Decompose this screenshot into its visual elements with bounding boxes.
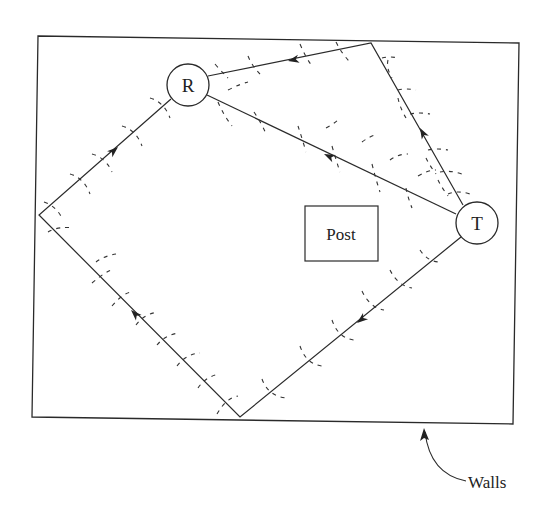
arrow-icon — [107, 144, 121, 157]
transmitter-node: T — [456, 202, 498, 244]
walls-label: Walls — [468, 473, 506, 492]
path-arrows — [107, 55, 429, 326]
bottom-left-path — [39, 99, 461, 417]
receiver-node: R — [167, 64, 209, 106]
direct-path — [207, 95, 456, 214]
top-wall-path — [208, 43, 463, 205]
walls-outline — [32, 36, 519, 424]
wavefront-marks — [44, 42, 470, 414]
post-obstacle: Post — [305, 206, 378, 261]
arrow-icon — [128, 307, 141, 320]
arrow-icon — [322, 150, 335, 162]
walls-callout: Walls — [420, 428, 506, 492]
callout-arrow-icon — [420, 428, 429, 441]
arrow-icon — [417, 126, 429, 139]
post-label: Post — [326, 225, 356, 244]
receiver-label: R — [182, 75, 195, 96]
transmitter-label: T — [471, 213, 483, 234]
multipath-diagram: Post — [0, 0, 544, 520]
signal-paths — [39, 43, 463, 417]
